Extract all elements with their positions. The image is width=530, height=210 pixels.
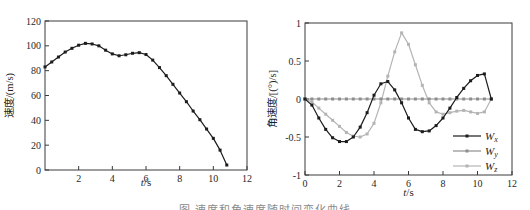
- y-tick-label: 20: [31, 140, 41, 151]
- series-marker-Wz: [442, 113, 445, 116]
- series-marker-Wz: [428, 101, 431, 104]
- y-tick-label: -1: [293, 170, 301, 181]
- y-tick-label: 0.5: [289, 56, 302, 67]
- series-marker-velocity: [158, 66, 161, 69]
- series-marker-Wx: [421, 130, 424, 133]
- x-tick-label: 8: [441, 178, 446, 189]
- figure-caption: 图 速度和角速度随时间变化曲线: [0, 201, 530, 210]
- series-marker-Wy: [338, 98, 341, 101]
- x-tick-label: 10: [473, 178, 483, 189]
- series-marker-velocity: [64, 51, 67, 54]
- series-line-velocity: [45, 43, 227, 165]
- x-tick-label: 8: [177, 173, 182, 184]
- series-marker-Wx: [317, 117, 320, 120]
- series-marker-velocity: [192, 110, 195, 113]
- x-tick-label: 12: [507, 178, 517, 189]
- series-marker-Wx: [366, 111, 369, 114]
- series-marker-Wz: [324, 113, 327, 116]
- series-marker-velocity: [57, 56, 60, 59]
- x-tick-label: 0: [303, 178, 308, 189]
- series-marker-Wy: [366, 98, 369, 101]
- series-marker-Wx: [407, 117, 410, 120]
- y-tick-label: 40: [31, 115, 41, 126]
- series-marker-Wz: [469, 110, 472, 113]
- legend-marker-Wz: [466, 165, 469, 168]
- series-marker-Wx: [379, 82, 382, 85]
- series-marker-Wx: [373, 94, 376, 97]
- series-marker-Wz: [400, 31, 403, 34]
- series-marker-velocity: [205, 128, 208, 131]
- series-marker-Wx: [393, 88, 396, 91]
- legend-marker-Wx: [466, 135, 469, 138]
- series-marker-Wz: [373, 122, 376, 125]
- series-marker-velocity: [198, 118, 201, 121]
- series-marker-Wx: [462, 87, 465, 90]
- series-marker-Wz: [338, 125, 341, 128]
- series-marker-velocity: [219, 149, 222, 152]
- series-marker-Wx: [483, 72, 486, 75]
- x-tick-label: 4: [372, 178, 377, 189]
- y-tick-label: 100: [26, 40, 41, 51]
- series-marker-Wx: [414, 128, 417, 131]
- x-axis-label: t/s: [403, 186, 413, 198]
- series-marker-Wy: [442, 98, 445, 101]
- series-marker-Wx: [455, 96, 458, 99]
- series-marker-velocity: [111, 52, 114, 55]
- series-marker-velocity: [104, 49, 107, 52]
- y-tick-label: -0.5: [285, 132, 301, 143]
- series-marker-velocity: [165, 74, 168, 77]
- series-marker-Wy: [407, 98, 410, 101]
- series-marker-velocity: [118, 54, 121, 57]
- x-tick-label: 12: [242, 173, 252, 184]
- series-marker-Wy: [310, 98, 313, 101]
- series-marker-velocity: [91, 42, 94, 45]
- series-marker-velocity: [151, 59, 154, 62]
- series-marker-Wx: [428, 129, 431, 132]
- series-line-Wx: [305, 74, 491, 142]
- series-marker-Wy: [414, 98, 417, 101]
- legend-item-Wy: Wy: [453, 145, 498, 160]
- y-tick-label: 120: [26, 16, 41, 27]
- series-marker-Wx: [331, 136, 334, 139]
- series-marker-Wy: [435, 98, 438, 101]
- velocity-chart: 24681012020406080100120t/s速度/(m/s): [0, 0, 265, 210]
- series-marker-Wz: [455, 110, 458, 113]
- series-marker-Wz: [407, 43, 410, 46]
- series-marker-Wy: [476, 98, 479, 101]
- series-marker-Wy: [379, 98, 382, 101]
- series-marker-Wx: [324, 128, 327, 131]
- y-tick-label: 0: [296, 94, 301, 105]
- series-marker-Wz: [310, 101, 313, 104]
- x-tick-label: 2: [337, 178, 342, 189]
- series-marker-Wz: [435, 110, 438, 113]
- series-marker-Wx: [442, 117, 445, 120]
- series-marker-Wz: [379, 101, 382, 104]
- legend-label-Wx: Wx: [485, 130, 498, 145]
- series-marker-Wz: [331, 119, 334, 122]
- series-marker-Wy: [331, 98, 334, 101]
- series-marker-Wy: [421, 98, 424, 101]
- series-marker-Wx: [338, 140, 341, 143]
- series-marker-Wx: [476, 74, 479, 77]
- series-marker-Wy: [352, 98, 355, 101]
- y-axis-label: 角速度/[(°)/s]: [266, 70, 279, 128]
- series-marker-velocity: [84, 42, 87, 45]
- series-marker-Wx: [345, 140, 348, 143]
- series-marker-Wx: [386, 80, 389, 83]
- series-marker-Wz: [386, 75, 389, 78]
- series-marker-Wx: [352, 136, 355, 139]
- series-marker-Wy: [469, 98, 472, 101]
- series-marker-Wy: [448, 98, 451, 101]
- legend-item-Wx: Wx: [453, 130, 498, 145]
- series-marker-Wz: [448, 111, 451, 114]
- series-marker-Wx: [400, 101, 403, 104]
- y-tick-label: 0: [36, 165, 41, 176]
- series-marker-Wz: [366, 132, 369, 135]
- series-marker-velocity: [70, 47, 73, 50]
- figure: 24681012020406080100120t/s速度/(m/s) 02468…: [0, 0, 530, 210]
- legend: WxWyWz: [453, 130, 498, 175]
- x-tick-label: 2: [76, 173, 81, 184]
- series-marker-velocity: [97, 44, 100, 47]
- series-marker-Wy: [317, 98, 320, 101]
- series-marker-Wy: [483, 98, 486, 101]
